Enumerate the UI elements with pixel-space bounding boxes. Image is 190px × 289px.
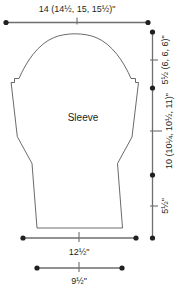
lower-width-endpoint-right — [133, 235, 138, 240]
right-vertical-dimensions: 5½ (6, 6, 6)" 10 (10¼, 10½, 11)" 5½" — [150, 29, 174, 240]
cap-height-label: 5½ (6, 6, 6)" — [160, 35, 170, 84]
schematic-canvas: 14 (14½, 15, 15½)" 5½ (6, 6, 6)" 10 (10¼… — [0, 0, 190, 289]
vertical-endpoint-length-bottom — [150, 172, 155, 177]
lower-width-label: 12½" — [69, 247, 90, 257]
lower-width-endpoint-left — [20, 235, 25, 240]
top-width-label: 14 (14½, 15, 15½)" — [39, 4, 116, 14]
top-dimension-endpoint-left — [3, 20, 8, 25]
sleeve-piece-label: Sleeve — [68, 112, 99, 123]
vertical-endpoint-bottom — [150, 235, 155, 240]
cuff-width-endpoint-right — [119, 265, 124, 270]
cuff-width-label: 9½" — [71, 276, 87, 286]
top-width-dimension: 14 (14½, 15, 15½)" — [3, 4, 150, 26]
cuff-height-label: 5½" — [160, 198, 170, 214]
cuff-width-dimension: 9½" — [34, 262, 124, 286]
vertical-endpoint-top — [150, 29, 155, 34]
sleeve-shape-path — [12, 34, 139, 228]
sleeve-schematic-diagram: 14 (14½, 15, 15½)" 5½ (6, 6, 6)" 10 (10¼… — [0, 0, 190, 289]
sleeve-length-label: 10 (10¼, 10½, 11)" — [164, 93, 174, 169]
sleeve-outline — [12, 34, 139, 228]
lower-width-dimension: 12½" — [20, 232, 138, 257]
top-dimension-endpoint-right — [145, 20, 150, 25]
cuff-width-endpoint-left — [34, 265, 39, 270]
vertical-endpoint-cap-bottom — [150, 85, 155, 90]
